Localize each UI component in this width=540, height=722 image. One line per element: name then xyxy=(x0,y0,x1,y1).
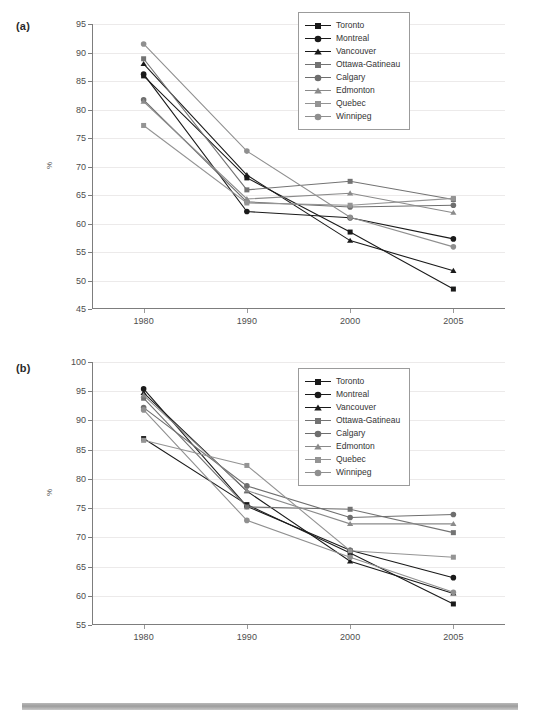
y-tick-label: 100 xyxy=(71,357,86,367)
x-tick-mark xyxy=(350,309,351,313)
square-marker xyxy=(348,203,353,208)
triangle-marker xyxy=(314,404,321,410)
legend-item-quebec[interactable]: Quebec xyxy=(305,97,400,110)
legend-item-quebec[interactable]: Quebec xyxy=(305,453,400,466)
square-marker-icon xyxy=(305,454,331,466)
legend-label: Vancouver xyxy=(336,45,376,58)
y-tick-label: 60 xyxy=(76,591,86,601)
legend-item-edmonton[interactable]: Edmonton xyxy=(305,84,400,97)
square-marker xyxy=(348,179,353,184)
square-marker xyxy=(244,200,249,205)
legend-item-ottawa-gatineau[interactable]: Ottawa-Gatineau xyxy=(305,58,400,71)
circle-marker xyxy=(244,148,250,154)
circle-marker xyxy=(315,430,322,437)
square-marker xyxy=(348,230,353,235)
x-tick-label: 2005 xyxy=(443,316,463,326)
triangle-marker-icon xyxy=(305,46,331,58)
y-tick-label: 90 xyxy=(76,415,86,425)
legend-a: TorontoMontrealVancouverOttawa-GatineauC… xyxy=(298,12,410,130)
triangle-marker xyxy=(314,87,321,93)
circle-marker-icon xyxy=(305,33,331,45)
x-tick-mark xyxy=(350,625,351,629)
series-line xyxy=(144,125,454,205)
x-tick-mark xyxy=(144,309,145,313)
legend-item-calgary[interactable]: Calgary xyxy=(305,71,400,84)
circle-marker xyxy=(347,554,353,560)
square-marker xyxy=(315,62,321,68)
footer-rule xyxy=(22,703,518,710)
legend-item-winnipeg[interactable]: Winnipeg xyxy=(305,110,400,123)
square-marker-icon xyxy=(305,59,331,71)
y-tick-label: 95 xyxy=(76,19,86,29)
circle-marker xyxy=(315,74,322,81)
circle-marker xyxy=(315,35,322,42)
square-marker xyxy=(141,123,146,128)
y-tick-label: 80 xyxy=(76,474,86,484)
series-quebec xyxy=(141,123,456,208)
legend-label: Vancouver xyxy=(336,401,376,414)
legend-label: Calgary xyxy=(336,71,365,84)
circle-marker xyxy=(315,113,322,120)
circle-marker xyxy=(244,518,250,524)
x-tick-label: 1990 xyxy=(237,316,257,326)
triangle-marker xyxy=(314,443,321,449)
square-marker xyxy=(348,507,353,512)
circle-marker-icon xyxy=(305,389,331,401)
y-tick-label: 70 xyxy=(76,162,86,172)
panel-label-b: (b) xyxy=(16,362,31,374)
panel-label-a: (a) xyxy=(16,20,30,32)
legend-item-montreal[interactable]: Montreal xyxy=(305,32,400,45)
square-marker xyxy=(315,457,321,463)
legend-label: Ottawa-Gatineau xyxy=(336,414,400,427)
square-marker xyxy=(141,438,146,443)
y-tick-label: 60 xyxy=(76,219,86,229)
circle-marker xyxy=(451,512,457,518)
x-tick-mark xyxy=(453,309,454,313)
x-tick-label: 1990 xyxy=(237,632,257,642)
y-tick-label: 95 xyxy=(76,386,86,396)
y-tick-label: 75 xyxy=(76,133,86,143)
square-marker xyxy=(315,379,321,385)
square-marker xyxy=(348,548,353,553)
legend-item-winnipeg[interactable]: Winnipeg xyxy=(305,466,400,479)
circle-marker-icon xyxy=(305,72,331,84)
legend-label: Toronto xyxy=(336,375,364,388)
legend-item-montreal[interactable]: Montreal xyxy=(305,388,400,401)
x-tick-mark xyxy=(247,625,248,629)
legend-item-ottawa-gatineau[interactable]: Ottawa-Gatineau xyxy=(305,414,400,427)
triangle-marker-icon xyxy=(305,85,331,97)
circle-marker xyxy=(347,214,353,220)
circle-marker xyxy=(141,71,147,77)
y-axis-title-b: % xyxy=(45,488,54,495)
legend-label: Quebec xyxy=(336,453,366,466)
square-marker xyxy=(451,287,456,292)
x-tick-label: 1980 xyxy=(134,632,154,642)
legend-label: Winnipeg xyxy=(336,466,371,479)
legend-item-edmonton[interactable]: Edmonton xyxy=(305,440,400,453)
y-tick-label: 80 xyxy=(76,105,86,115)
square-marker xyxy=(141,56,146,61)
legend-item-vancouver[interactable]: Vancouver xyxy=(305,401,400,414)
legend-label: Winnipeg xyxy=(336,110,371,123)
legend-label: Ottawa-Gatineau xyxy=(336,58,400,71)
legend-item-toronto[interactable]: Toronto xyxy=(305,19,400,32)
square-marker xyxy=(244,463,249,468)
square-marker-icon xyxy=(305,415,331,427)
circle-marker xyxy=(451,202,457,208)
x-tick-mark xyxy=(144,625,145,629)
legend-item-vancouver[interactable]: Vancouver xyxy=(305,45,400,58)
circle-marker xyxy=(347,515,353,521)
y-tick-label: 65 xyxy=(76,190,86,200)
y-tick-mark xyxy=(88,625,92,626)
y-tick-label: 75 xyxy=(76,503,86,513)
legend-item-toronto[interactable]: Toronto xyxy=(305,375,400,388)
circle-marker xyxy=(141,407,147,413)
legend-item-calgary[interactable]: Calgary xyxy=(305,427,400,440)
x-tick-label: 2000 xyxy=(340,316,360,326)
y-tick-label: 85 xyxy=(76,76,86,86)
x-tick-label: 2000 xyxy=(340,632,360,642)
square-marker xyxy=(451,555,456,560)
y-axis-title-a: % xyxy=(45,161,54,168)
y-tick-label: 90 xyxy=(76,48,86,58)
triangle-marker xyxy=(347,238,353,243)
